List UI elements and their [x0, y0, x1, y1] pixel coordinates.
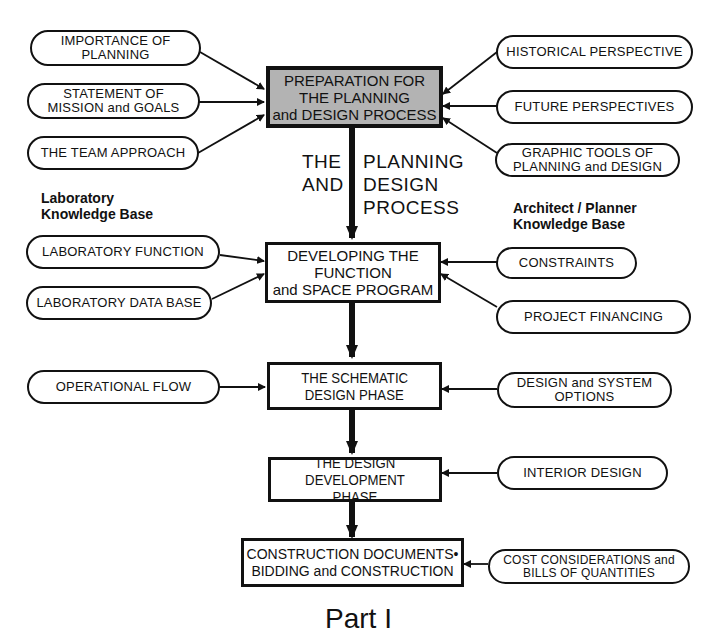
input-interior-design: INTERIOR DESIGN	[497, 456, 668, 490]
pill-line: OPTIONS	[555, 390, 615, 404]
pill-line: FUTURE PERSPECTIVES	[515, 100, 675, 114]
step-schematic-design: THE SCHEMATIC DESIGN PHASE	[267, 362, 442, 410]
title-word: DESIGN	[363, 173, 464, 196]
pill-line: PLANNING	[81, 48, 149, 62]
input-constraints: CONSTRAINTS	[496, 247, 637, 279]
pill-line: CONSTRAINTS	[519, 256, 614, 270]
step-line: THE DESIGN	[315, 454, 396, 471]
step-line: DESIGN PHASE	[305, 386, 404, 403]
pill-line: OPERATIONAL FLOW	[56, 380, 191, 394]
pill-line: THE TEAM APPROACH	[41, 146, 186, 160]
process-title-right: PLANNING DESIGN PROCESS	[363, 150, 464, 219]
input-project-financing: PROJECT FINANCING	[496, 300, 691, 334]
step-line: DEVELOPMENT PHASE	[281, 471, 429, 505]
step-line: THE PLANNING	[299, 89, 410, 106]
input-operational-flow: OPERATIONAL FLOW	[27, 370, 220, 404]
input-design-system-options: DESIGN and SYSTEM OPTIONS	[497, 372, 672, 408]
input-graphic-tools: GRAPHIC TOOLS OF PLANNING and DESIGN	[495, 143, 680, 177]
pill-line: HISTORICAL PERSPECTIVE	[506, 45, 682, 59]
process-title-left: THE AND	[302, 150, 344, 196]
step-line: THE SCHEMATIC	[301, 369, 408, 386]
step-line: and DESIGN PROCESS	[272, 106, 436, 123]
step-construction: CONSTRUCTION DOCUMENTS• BIDDING and CONS…	[241, 538, 464, 587]
input-cost-considerations: COST CONSIDERATIONS and BILLS OF QUANTIT…	[488, 549, 690, 584]
step-design-development: THE DESIGN DEVELOPMENT PHASE	[268, 457, 442, 502]
pill-line: LABORATORY DATA BASE	[36, 296, 201, 310]
input-statement-of-mission: STATEMENT OF MISSION and GOALS	[27, 83, 200, 119]
pill-line: DESIGN and SYSTEM	[517, 376, 653, 390]
pill-line: MISSION and GOALS	[47, 101, 179, 115]
input-future-perspectives: FUTURE PERSPECTIVES	[496, 90, 693, 124]
input-team-approach: THE TEAM APPROACH	[27, 136, 199, 170]
input-laboratory-data-base: LABORATORY DATA BASE	[26, 286, 212, 320]
input-importance-of-planning: IMPORTANCE OF PLANNING	[30, 30, 201, 66]
laboratory-knowledge-base-label: Laboratory Knowledge Base	[41, 190, 153, 222]
kb-line: Architect / Planner	[513, 200, 637, 216]
architect-knowledge-base-label: Architect / Planner Knowledge Base	[513, 200, 637, 232]
kb-line: Laboratory	[41, 190, 153, 206]
title-word: AND	[302, 173, 344, 196]
pill-line: LABORATORY FUNCTION	[42, 245, 204, 259]
pill-line: BILLS OF QUANTITIES	[523, 567, 655, 580]
title-word: PROCESS	[363, 196, 464, 219]
pill-line: PROJECT FINANCING	[524, 310, 663, 324]
title-word: PLANNING	[363, 150, 464, 173]
kb-line: Knowledge Base	[41, 206, 153, 222]
step-line: FUNCTION	[314, 264, 392, 281]
pill-line: GRAPHIC TOOLS OF	[522, 146, 653, 160]
pill-line: COST CONSIDERATIONS and	[503, 554, 675, 567]
step-line: PREPARATION FOR	[284, 72, 425, 89]
step-line: BIDDING and CONSTRUCTION	[251, 563, 453, 580]
pill-line: PLANNING and DESIGN	[513, 160, 662, 174]
pill-line: INTERIOR DESIGN	[523, 466, 642, 480]
step-line: CONSTRUCTION DOCUMENTS•	[247, 546, 459, 563]
pill-line: IMPORTANCE OF	[61, 34, 171, 48]
part-label: Part I	[0, 603, 717, 632]
step-line: DEVELOPING THE	[287, 247, 418, 264]
title-word: THE	[302, 150, 344, 173]
input-historical-perspective: HISTORICAL PERSPECTIVE	[496, 35, 693, 69]
kb-line: Knowledge Base	[513, 216, 637, 232]
pill-line: STATEMENT OF	[63, 87, 164, 101]
input-laboratory-function: LABORATORY FUNCTION	[26, 235, 220, 269]
step-line: and SPACE PROGRAM	[273, 281, 434, 298]
step-developing-function: DEVELOPING THE FUNCTION and SPACE PROGRA…	[265, 242, 441, 303]
step-preparation: PREPARATION FOR THE PLANNING and DESIGN …	[266, 66, 443, 128]
